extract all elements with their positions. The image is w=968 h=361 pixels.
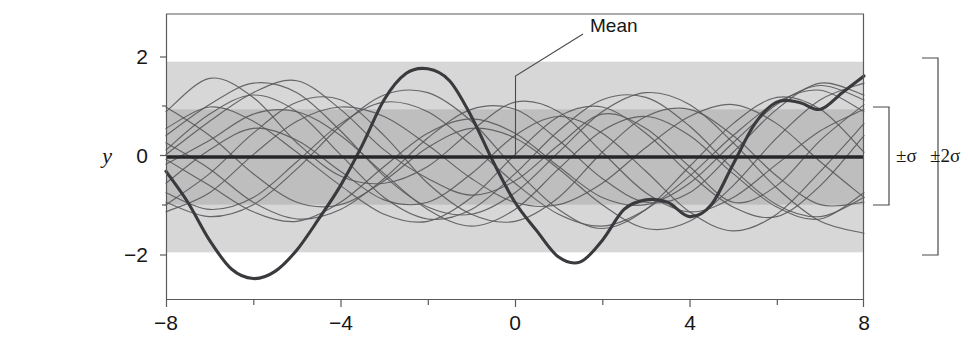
y-tick-label-minus-2: −2 — [124, 243, 148, 266]
x-tick-label-8: 8 — [858, 311, 870, 334]
x-tick-label-minus-4: −4 — [329, 311, 353, 334]
one-sigma-annotation: ±σ — [873, 107, 917, 205]
x-tick-label-0: 0 — [509, 311, 521, 334]
x-axis-ticks — [167, 300, 864, 307]
mean-callout-label: Mean — [590, 15, 638, 36]
chart-svg: 2 0 −2 y −8 −4 0 4 8 Mean ±σ — [0, 0, 968, 361]
y-tick-label-2: 2 — [136, 45, 148, 68]
two-sigma-label: ±2σ — [930, 145, 960, 166]
y-tick-label-0: 0 — [136, 144, 148, 167]
one-sigma-label: ±σ — [896, 145, 917, 166]
x-tick-label-minus-8: −8 — [154, 311, 178, 334]
two-sigma-annotation: ±2σ — [922, 58, 960, 255]
one-sigma-bracket — [873, 107, 889, 205]
x-tick-label-4: 4 — [684, 311, 696, 334]
y-axis-label: y — [100, 143, 112, 168]
gaussian-process-sample-figure: 2 0 −2 y −8 −4 0 4 8 Mean ±σ — [0, 0, 968, 361]
